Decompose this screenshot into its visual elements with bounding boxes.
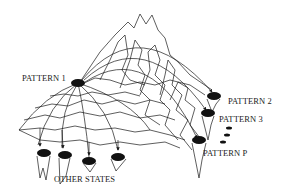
well-other-state-2: [58, 151, 72, 159]
well-pattern-2: [207, 92, 221, 100]
label-other-states: OTHER STATES: [54, 174, 115, 184]
well-other-state-1: [37, 149, 51, 157]
label-pattern-3: PATTERN 3: [219, 114, 263, 124]
well-pattern-1: [71, 79, 85, 87]
well-other-state-3: [82, 157, 96, 165]
label-pattern-2: PATTERN 2: [228, 96, 272, 106]
well-pattern-p: [192, 136, 206, 144]
label-pattern-1: PATTERN 1: [22, 73, 66, 83]
ellipsis-dot: [220, 141, 226, 144]
well-other-state-4: [111, 153, 125, 161]
well-pattern-3: [201, 109, 215, 117]
ellipsis-dot: [226, 127, 232, 130]
ellipsis-dot: [224, 134, 230, 137]
label-pattern-p: PATTERN P: [203, 148, 247, 158]
energy-landscape-diagram: PATTERN 1 PATTERN 2 PATTERN 3 PATTERN P …: [0, 0, 295, 196]
